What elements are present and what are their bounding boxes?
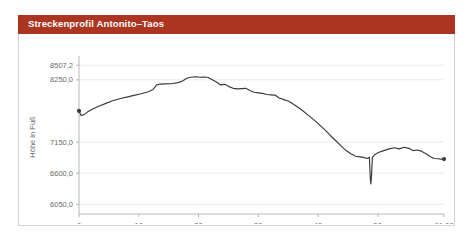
y-tick-labels-group: 6050,06600,07150,08250,08507,2 (50, 61, 73, 209)
x-tick-label: 40 (314, 221, 322, 224)
series-start-marker (77, 109, 81, 113)
x-tick-labels-group: 0102030405061,08 (77, 221, 453, 224)
x-tick-label: 0 (77, 221, 81, 224)
y-tick-label: 6600,0 (50, 169, 73, 178)
x-tick-label: 20 (194, 221, 202, 224)
elevation-profile-plot: 6050,06600,07150,08250,08507,2 010203040… (19, 34, 454, 224)
chart-card: 6050,06600,07150,08250,08507,2 010203040… (18, 34, 455, 226)
chart-figure: Streckenprofil Antonito–Taos 6050,06600,… (18, 15, 455, 226)
y-tick-label: 7150,0 (50, 138, 73, 147)
series-end-marker (442, 157, 446, 161)
x-tick-label: 61,08 (435, 221, 454, 224)
chart-title-bar: Streckenprofil Antonito–Taos (18, 15, 455, 34)
page-title: Streckenprofil Antonito–Taos (28, 18, 164, 29)
x-tick-label: 10 (135, 221, 143, 224)
y-tick-label: 6050,0 (50, 200, 73, 209)
y-tick-label: 8507,2 (50, 61, 73, 70)
x-tick-label: 50 (374, 221, 382, 224)
x-tick-label: 30 (254, 221, 262, 224)
elevation-series-line (79, 77, 444, 184)
y-axis-title: Höhe in Fuß (28, 116, 37, 158)
y-tick-label: 8250,0 (50, 75, 73, 84)
gridlines-group (76, 65, 444, 204)
